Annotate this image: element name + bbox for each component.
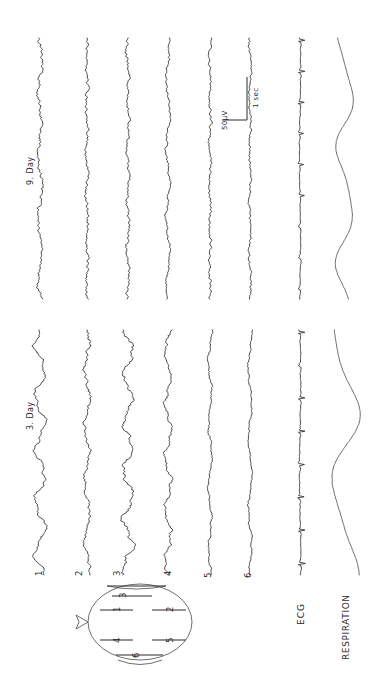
trace-day3-ch1 <box>32 330 47 575</box>
trace-day9-ch4 <box>165 38 171 299</box>
session-label-day3: 3. Day <box>26 402 35 430</box>
trace-day3-ch3 <box>121 330 136 575</box>
trace-day3-ch2 <box>83 330 92 575</box>
trace-day9-ch2 <box>85 38 90 299</box>
trace-day3-ch8 <box>332 330 360 575</box>
trace-day9-ch8 <box>335 38 353 299</box>
trace-day3-ch7 <box>298 330 306 575</box>
electrode-label-2: 2 <box>165 607 175 612</box>
channel-label-respiration: RESPIRATION <box>341 594 351 660</box>
trace-day9-ch7 <box>298 38 305 299</box>
trace-day9-ch5 <box>208 38 212 299</box>
channel-label-1: 1 <box>34 571 44 576</box>
session-label-day9: 9. Day <box>26 157 35 185</box>
channel-label-4: 4 <box>163 571 173 576</box>
traces-canvas <box>0 0 374 691</box>
calibration-amplitude-label: 50µV <box>221 110 229 130</box>
channel-label-6: 6 <box>243 573 253 578</box>
channel-label-3: 3 <box>112 571 122 576</box>
trace-day3-ch5 <box>207 330 213 575</box>
electrode-label-4: 4 <box>112 638 122 643</box>
trace-day9-ch1 <box>36 38 43 299</box>
calibration-time-label: 1 sec <box>252 88 260 108</box>
channel-label-2: 2 <box>74 571 84 576</box>
trace-day3-ch4 <box>163 330 173 575</box>
electrode-label-6: 6 <box>131 653 141 658</box>
eeg-polygraph-figure: 3 1 2 4 5 6 9. Day 3. Day 1 2 3 4 5 6 EC… <box>0 0 374 691</box>
channel-label-5: 5 <box>203 573 213 578</box>
channel-label-ecg: ECG <box>296 603 306 625</box>
trace-day3-ch6 <box>247 330 252 575</box>
electrode-label-5: 5 <box>165 638 175 643</box>
electrode-label-3: 3 <box>118 593 128 598</box>
electrode-label-1: 1 <box>112 607 122 612</box>
trace-day9-ch6 <box>248 38 252 299</box>
trace-day9-ch3 <box>125 38 130 299</box>
